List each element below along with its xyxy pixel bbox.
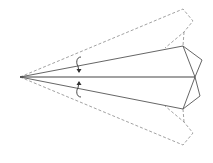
paper-airplane-fold-diagram [0, 0, 213, 163]
